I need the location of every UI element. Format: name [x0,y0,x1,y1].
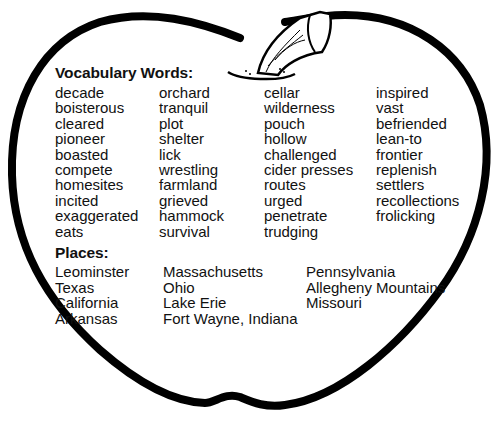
vocab-word: penetrate [264,208,353,223]
vocab-word: recollections [376,193,459,208]
vocab-word: vast [376,100,459,115]
vocab-word: urged [264,193,353,208]
vocab-word: compete [55,162,138,177]
vocab-word: eats [55,224,138,239]
vocab-word: decade [55,85,138,100]
places-column-1: Leominster Texas California Arkansas [55,264,129,326]
vocab-word: wrestling [159,162,224,177]
vocab-word: cider presses [264,162,353,177]
vocab-word: boisterous [55,100,138,115]
vocabulary-column-2: orchard tranquil plot shelter lick wrest… [159,85,224,239]
vocab-word: challenged [264,147,353,162]
vocab-word: incited [55,193,138,208]
vocab-word: hollow [264,131,353,146]
place-name: Missouri [306,295,445,311]
vocab-word: hammock [159,208,224,223]
place-name: Massachusetts [163,264,298,280]
vocabulary-column-4: inspired vast befriended lean-to frontie… [376,85,459,224]
vocabulary-heading: Vocabulary Words: [55,64,193,82]
vocab-word: lick [159,147,224,162]
apple-stem-icon [228,12,331,79]
place-name: Leominster [55,264,129,280]
vocab-word: frontier [376,147,459,162]
vocabulary-column-1: decade boisterous cleared pioneer boaste… [55,85,138,239]
vocab-word: replenish [376,162,459,177]
vocab-word: tranquil [159,100,224,115]
vocab-word: grieved [159,193,224,208]
vocabulary-column-3: cellar wilderness pouch hollow challenge… [264,85,353,239]
place-name: Ohio [163,280,298,296]
vocab-word: trudging [264,224,353,239]
vocab-word: settlers [376,177,459,192]
place-name: Arkansas [55,311,129,327]
place-name: Texas [55,280,129,296]
place-name: Allegheny Mountains [306,280,445,296]
place-name: California [55,295,129,311]
place-name: Fort Wayne, Indiana [163,311,298,327]
vocab-word: cellar [264,85,353,100]
vocab-word: pouch [264,116,353,131]
vocab-word: inspired [376,85,459,100]
vocab-word: exaggerated [55,208,138,223]
places-column-3: Pennsylvania Allegheny Mountains Missour… [306,264,445,311]
vocab-word: lean-to [376,131,459,146]
vocab-word: shelter [159,131,224,146]
places-heading: Places: [55,244,109,262]
vocab-word: frolicking [376,208,459,223]
vocab-word: homesites [55,177,138,192]
vocab-word: plot [159,116,224,131]
vocab-word: survival [159,224,224,239]
vocab-word: befriended [376,116,459,131]
place-name: Lake Erie [163,295,298,311]
vocab-word: farmland [159,177,224,192]
vocab-word: wilderness [264,100,353,115]
vocab-word: routes [264,177,353,192]
vocab-word: cleared [55,116,138,131]
vocab-word: orchard [159,85,224,100]
place-name: Pennsylvania [306,264,445,280]
vocab-word: boasted [55,147,138,162]
places-column-2: Massachusetts Ohio Lake Erie Fort Wayne,… [163,264,298,326]
vocab-word: pioneer [55,131,138,146]
